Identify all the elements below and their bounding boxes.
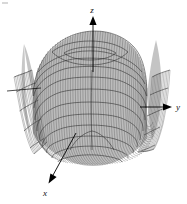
surface-plot-canvas: z y x [0, 0, 187, 204]
figure-container: z y x [0, 0, 187, 204]
z-axis-label: z [89, 5, 94, 15]
x-axis-arrowhead [49, 174, 57, 184]
y-axis-label: y [175, 102, 180, 112]
z-axis-arrowhead [89, 16, 96, 25]
x-axis-label: x [42, 188, 47, 198]
y-axis-arrowhead [163, 103, 172, 110]
corner-artifact [2, 2, 8, 4]
